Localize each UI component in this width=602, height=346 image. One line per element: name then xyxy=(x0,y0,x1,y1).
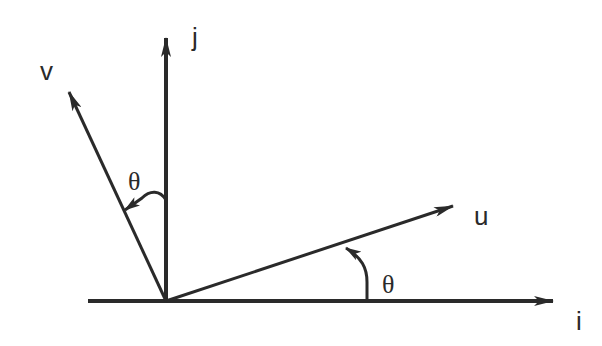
theta-upper-label: θ xyxy=(128,167,140,196)
u-vector-arrow xyxy=(166,206,453,301)
v-vector-arrow xyxy=(69,92,166,301)
v-vector-label: v xyxy=(40,56,53,86)
theta-lower-arc-icon xyxy=(346,248,367,300)
j-axis-label: j xyxy=(191,22,198,52)
basis-rotation-diagram: i j u v θ θ xyxy=(0,0,602,346)
u-vector-label: u xyxy=(474,201,488,231)
i-axis-label: i xyxy=(576,306,582,336)
theta-lower-label: θ xyxy=(382,270,394,299)
